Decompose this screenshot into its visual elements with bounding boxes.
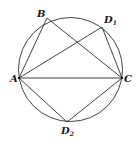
geometry-diagram: B D1 A C D2 (0, 0, 136, 156)
point-C (121, 77, 123, 79)
circumcircle (19, 18, 123, 122)
label-D1: D1 (103, 14, 117, 26)
label-C: C (124, 73, 132, 84)
segment-AD2 (19, 78, 67, 122)
point-A (18, 77, 20, 79)
segment-BC (47, 18, 122, 78)
label-D2: D2 (60, 125, 74, 137)
label-A: A (9, 73, 18, 84)
label-B: B (36, 8, 45, 19)
